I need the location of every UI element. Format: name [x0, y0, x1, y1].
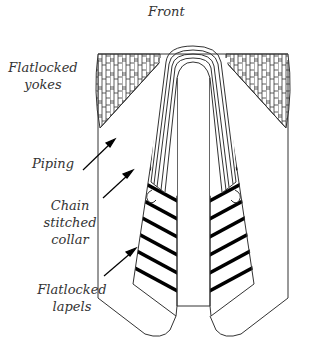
flatlocked-yoke-right	[226, 54, 290, 128]
label-piping: Piping	[24, 155, 82, 172]
label-flatlocked-lapels: Flatlocked lapels	[36, 281, 108, 315]
center-placket	[177, 78, 210, 306]
flatlocked-yoke-left	[96, 54, 160, 128]
label-flatlocked-yokes: Flatlocked yokes	[2, 59, 84, 93]
label-chain-stitched-collar: Chain stitched collar	[40, 197, 100, 248]
garment-body	[98, 60, 288, 336]
title-front: Front	[148, 3, 185, 20]
garment-front-diagram: Front Flatlocked yokes Piping Chain stit…	[0, 0, 309, 352]
